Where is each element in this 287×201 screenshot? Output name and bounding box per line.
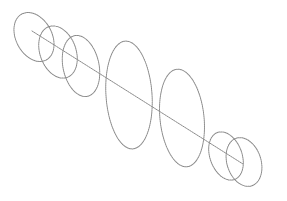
diagram-canvas bbox=[0, 0, 287, 201]
ring-1 bbox=[6, 6, 62, 69]
axis-line bbox=[32, 31, 243, 164]
ring-axis-diagram bbox=[0, 0, 287, 201]
ring-2 bbox=[32, 20, 84, 83]
ring-4 bbox=[102, 40, 155, 151]
rings-group bbox=[6, 6, 268, 191]
ring-5 bbox=[155, 67, 209, 169]
ring-7 bbox=[220, 133, 268, 191]
ring-3 bbox=[57, 32, 105, 100]
